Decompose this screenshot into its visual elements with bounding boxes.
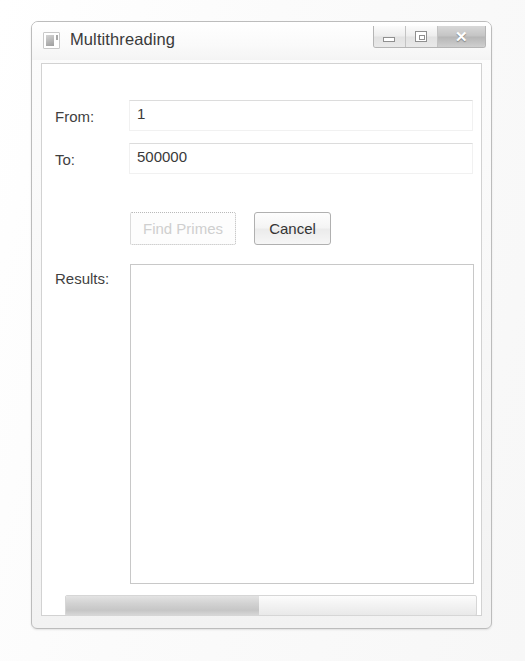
window-controls: ✕ bbox=[373, 26, 486, 48]
close-button[interactable]: ✕ bbox=[438, 26, 485, 47]
maximize-button[interactable] bbox=[406, 26, 438, 47]
minimize-button[interactable] bbox=[374, 26, 406, 47]
results-label: Results: bbox=[55, 270, 109, 287]
find-primes-button[interactable]: Find Primes bbox=[130, 212, 236, 245]
window-title: Multithreading bbox=[70, 30, 175, 49]
to-input[interactable]: 500000 bbox=[129, 143, 473, 174]
to-label: To: bbox=[55, 151, 75, 168]
maximize-icon bbox=[415, 31, 427, 42]
application-window: Multithreading ✕ From: 1 To: 500000 bbox=[31, 21, 492, 629]
progress-bar bbox=[65, 595, 477, 616]
results-output[interactable] bbox=[130, 264, 474, 584]
progress-bar-fill bbox=[66, 596, 259, 615]
application-icon bbox=[43, 32, 60, 49]
from-label: From: bbox=[55, 108, 94, 125]
from-input[interactable]: 1 bbox=[129, 100, 473, 131]
cancel-button[interactable]: Cancel bbox=[254, 212, 331, 245]
close-icon: ✕ bbox=[438, 26, 485, 47]
client-area: From: 1 To: 500000 Find Primes Cancel Re… bbox=[41, 63, 482, 616]
title-bar[interactable]: Multithreading ✕ bbox=[32, 22, 491, 60]
page-background: Multithreading ✕ From: 1 To: 500000 bbox=[0, 0, 525, 661]
minimize-icon bbox=[383, 37, 395, 42]
